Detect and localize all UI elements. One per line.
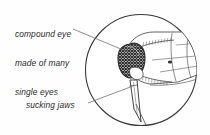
illustration-page: compound eye made of many single eyes su… [0,0,210,135]
label-sucking-jaws: sucking jaws [26,101,75,111]
label-compound-eye-line3: single eyes [15,88,71,98]
label-compound-eye-line1: compound eye [15,30,71,40]
thorax-spot [168,61,172,64]
label-compound-eye-line2: made of many [15,59,71,69]
